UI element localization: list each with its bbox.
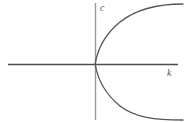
parabola-figure: c k xyxy=(0,0,185,122)
x-axis-label: k xyxy=(167,68,171,78)
y-axis-label: c xyxy=(100,3,104,13)
plot-background xyxy=(0,0,185,122)
plot-canvas xyxy=(0,0,185,122)
